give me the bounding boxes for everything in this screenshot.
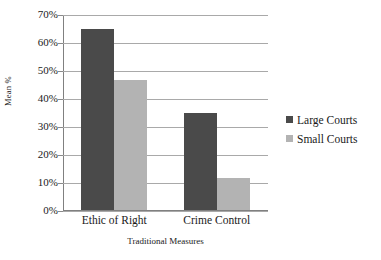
y-axis-line [63,15,64,211]
legend-item: Small Courts [286,129,381,148]
y-axis-tick-label: 70% [16,9,58,20]
y-axis-tick-mark [58,155,63,156]
chart-legend: Large CourtsSmall Courts [286,110,381,148]
bar [184,113,217,210]
y-axis-tick-mark [58,43,63,44]
legend-swatch-icon [286,116,293,123]
x-axis-category-labels: Ethic of RightCrime Control [63,214,268,234]
legend-label: Large Courts [297,114,357,126]
bar [81,29,114,210]
legend-swatch-icon [286,135,293,142]
legend-label: Small Courts [297,133,357,145]
y-axis-tick-label: 40% [16,93,58,104]
bar [217,178,250,210]
x-axis-category-label: Crime Control [166,214,269,226]
x-axis-category-label: Ethic of Right [63,214,166,226]
y-axis-tick-mark [58,99,63,100]
bar [114,80,147,210]
y-axis-tick-label: 0% [16,205,58,216]
y-axis-tick-label: 30% [16,121,58,132]
y-axis-title: Mean % [3,61,13,121]
y-axis-tick-mark [58,71,63,72]
y-axis-tick-mark [58,15,63,16]
y-axis-tick-labels: 70%60%50%40%30%20%10%0% [14,0,58,260]
y-axis-tick-label: 10% [16,177,58,188]
legend-item: Large Courts [286,110,381,129]
bar-chart: Mean % 70%60%50%40%30%20%10%0% Ethic of … [0,0,381,260]
y-axis-tick-label: 60% [16,37,58,48]
gridline [63,15,268,16]
plot-area [63,15,268,211]
y-axis-tick-mark [58,183,63,184]
y-axis-tick-label: 50% [16,65,58,76]
y-axis-tick-mark [58,127,63,128]
gridline [63,211,268,212]
x-axis-title: Traditional Measures [63,236,268,246]
y-axis-tick-label: 20% [16,149,58,160]
y-axis-tick-mark [58,211,63,212]
